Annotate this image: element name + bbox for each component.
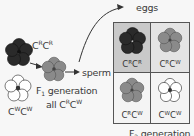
punnett-square: CRCR CRCW CRCW CWCW (113, 22, 190, 124)
punnett-cell: CRCR (114, 23, 151, 73)
eggs-label: eggs (136, 3, 158, 13)
generation-text: generation (138, 128, 191, 136)
punnett-cell: CRCW (114, 73, 151, 123)
white-flower-icon (157, 77, 183, 103)
f1-all-genotype: all CRCW (46, 99, 82, 110)
f1-generation-label: F1 generation (36, 86, 97, 97)
allele-superscript: W (27, 105, 33, 112)
white-flower-icon (4, 74, 32, 102)
cell-genotype: CRCR (114, 59, 150, 69)
parent-white-genotype: CWCW (8, 106, 32, 117)
punnett-cell: CRCW (151, 23, 189, 73)
generation-text: generation (45, 85, 98, 96)
allele-superscript: W (137, 110, 142, 116)
cell-genotype: CRCW (114, 110, 150, 120)
pink-flower-icon (119, 77, 145, 103)
pink-flower-icon (157, 27, 183, 53)
allele-superscript: R (49, 39, 53, 46)
allele-superscript: R (138, 59, 142, 65)
parent-red-genotype: CRCR (32, 40, 53, 51)
sperm-label: sperm (82, 68, 111, 78)
allele-superscript: W (176, 110, 181, 116)
red-flower-icon (119, 27, 146, 54)
f2-generation-label: F2 generation (129, 129, 190, 136)
punnett-cell: CWCW (151, 73, 189, 123)
red-flower-icon (4, 38, 34, 66)
cell-genotype: CWCW (151, 110, 189, 120)
allele-superscript: W (175, 59, 180, 65)
allele-superscript: W (76, 98, 82, 105)
pink-flower-icon (41, 56, 67, 82)
all-text: all (46, 99, 59, 110)
cell-genotype: CRCW (151, 59, 189, 69)
